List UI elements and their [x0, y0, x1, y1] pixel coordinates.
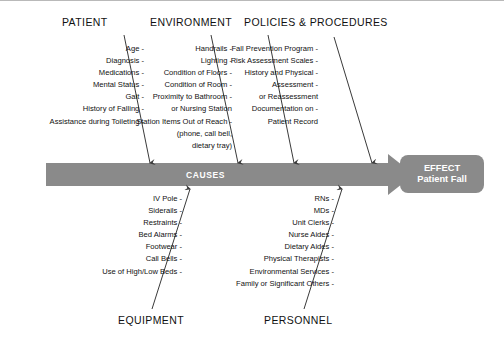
cause-item: Footwear -: [60, 241, 182, 253]
cause-item: History and Physical -: [190, 67, 318, 79]
cause-list-personnel: RNs - MDs - Unit Clerks - Nurse Aides - …: [196, 193, 334, 290]
category-title-environment: ENVIRONMENT: [150, 16, 232, 28]
cause-item: Dietary Aides -: [196, 241, 334, 253]
cause-item: Restraints -: [60, 217, 182, 229]
cause-list-equipment: IV Pole - Siderails - Restraints - Bed A…: [60, 193, 182, 278]
cause-item: Assessment -: [190, 79, 318, 91]
cause-item: (phone, call bell,: [110, 128, 232, 140]
category-title-policies-procedures: POLICIES & PROCEDURES: [244, 16, 388, 28]
bone-line-policies: [334, 37, 372, 163]
cause-item: Environmental Services -: [196, 266, 334, 278]
cause-item: Physical Therapists -: [196, 253, 334, 265]
cause-item: Patient Record: [190, 116, 318, 128]
fishbone-diagram-canvas: PATIENT ENVIRONMENT POLICIES & PROCEDURE…: [0, 0, 504, 338]
cause-item: Nurse Aides -: [196, 229, 334, 241]
cause-item: dietary tray): [110, 140, 232, 152]
cause-item: Risk Assessment Scales -: [190, 55, 318, 67]
cause-item: Fall Prevention Program -: [190, 43, 318, 55]
cause-item: IV Pole -: [60, 193, 182, 205]
category-title-equipment: EQUIPMENT: [118, 314, 184, 326]
cause-list-policies-procedures: Fall Prevention Program - Risk Assessmen…: [190, 43, 318, 128]
spine-arrow: [46, 154, 414, 195]
cause-item: Family or Significant Others -: [196, 278, 334, 290]
cause-item: Call Bells -: [60, 253, 182, 265]
cause-item: Use of High/Low Beds -: [60, 266, 182, 278]
cause-item: Siderails -: [60, 205, 182, 217]
effect-title: EFFECT: [424, 163, 460, 175]
category-title-patient: PATIENT: [62, 16, 108, 28]
spine-label-causes: CAUSES: [186, 170, 225, 180]
cause-item: Bed Alarms -: [60, 229, 182, 241]
cause-item: MDs -: [196, 205, 334, 217]
cause-item: or Reassessment: [190, 91, 318, 103]
effect-box: EFFECT Patient Fall: [400, 155, 484, 193]
cause-item: Documentation on -: [190, 103, 318, 115]
category-title-personnel: PERSONNEL: [264, 314, 332, 326]
cause-item: RNs -: [196, 193, 334, 205]
cause-item: Unit Clerks -: [196, 217, 334, 229]
effect-subtitle: Patient Fall: [417, 174, 467, 186]
